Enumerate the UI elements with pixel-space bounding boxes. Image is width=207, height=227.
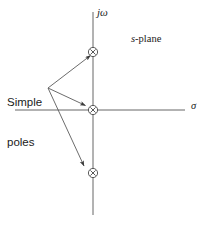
- pole-marker-origin: [88, 105, 97, 114]
- arrow-to-lower-pole: [48, 88, 84, 166]
- annotation-line-1: Simple: [7, 96, 42, 109]
- annotation-simple-poles: Simple poles: [7, 70, 42, 176]
- s-plane-label-rest: -plane: [135, 33, 161, 44]
- arrow-to-upper-pole: [48, 56, 91, 89]
- real-axis-label: σ: [191, 100, 196, 112]
- s-plane-pole-diagram: Simple poles s-plane jω σ: [0, 0, 207, 227]
- pole-marker-lower: [88, 168, 97, 177]
- annotation-arrows-group: [48, 56, 91, 167]
- annotation-line-2: poles: [7, 136, 42, 149]
- imaginary-axis-label: jω: [97, 6, 108, 19]
- arrow-to-origin-pole: [48, 88, 86, 106]
- pole-marker-upper: [88, 47, 97, 56]
- s-plane-label: s-plane: [131, 33, 161, 45]
